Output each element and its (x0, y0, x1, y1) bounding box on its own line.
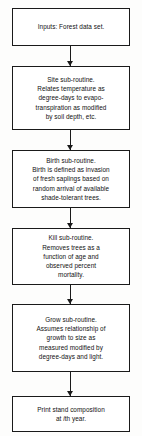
site-subroutine-box: Site sub-routine. Relates temperature as… (12, 66, 130, 130)
connector-grow-to-print (66, 372, 75, 396)
birth-subroutine-label: Birth sub-routine. Birth is defined as i… (32, 156, 109, 202)
site-subroutine-label: Site sub-routine. Relates temperature as… (36, 75, 107, 121)
grow-subroutine-box: Grow sub-routine. Assumes relationship o… (12, 304, 130, 372)
grow-subroutine-label: Grow sub-routine. Assumes relationship o… (37, 315, 106, 361)
kill-subroutine-box: Kill sub-routine. Removes trees as a fun… (12, 228, 130, 285)
flowchart-diagram: Inputs: Forest data set. Site sub-routin… (0, 0, 142, 436)
birth-subroutine-box: Birth sub-routine. Birth is defined as i… (12, 150, 130, 208)
connector-inputs-to-site (66, 46, 75, 66)
connector-kill-to-grow (66, 285, 75, 304)
print-output-label-part2: th year. (65, 415, 86, 422)
connector-birth-to-kill (66, 208, 75, 228)
inputs-box-label: Inputs: Forest data set. (38, 22, 105, 31)
print-output-label: Print stand composition at ith year. (37, 405, 105, 423)
kill-subroutine-label: Kill sub-routine. Removes trees as a fun… (42, 233, 100, 279)
inputs-box: Inputs: Forest data set. (12, 8, 130, 46)
print-output-box: Print stand composition at ith year. (12, 396, 130, 432)
connector-site-to-birth (66, 130, 75, 150)
